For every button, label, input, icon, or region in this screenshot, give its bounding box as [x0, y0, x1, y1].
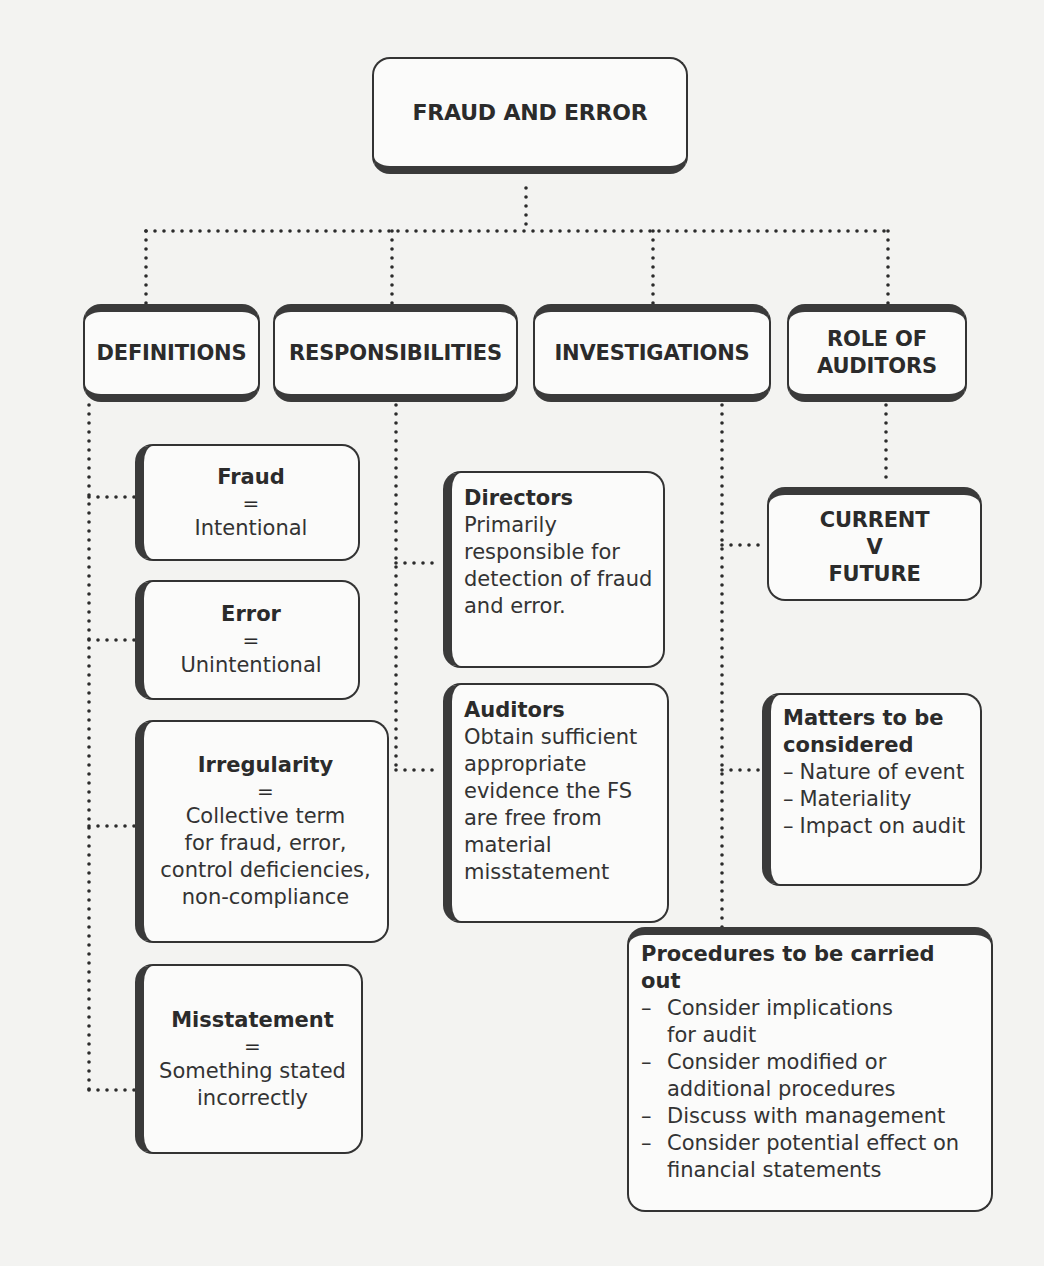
dash-bullet: –	[641, 1049, 667, 1103]
definition-term: Fraud	[217, 464, 285, 491]
matters-item-text: Impact on audit	[800, 813, 966, 840]
versus-label: V	[866, 534, 882, 561]
dash-bullet: –	[641, 1130, 667, 1184]
fraud-and-error-diagram: FRAUD AND ERROR DEFINITIONS RESPONSIBILI…	[0, 0, 1044, 1266]
category-role-of-auditors: ROLE OF AUDITORS	[787, 304, 967, 402]
procedure-text: Consider implications	[667, 995, 893, 1022]
procedures-box: Procedures to be carried out – Consider …	[627, 927, 993, 1212]
procedure-text: Discuss with management	[667, 1103, 945, 1130]
responsibility-text: and error.	[464, 593, 566, 620]
category-responsibilities: RESPONSIBILITIES	[273, 304, 518, 402]
procedure-item: – Discuss with management	[641, 1103, 945, 1130]
definition-term: Misstatement	[171, 1007, 334, 1034]
responsibility-text: are free from	[464, 805, 602, 832]
dash-bullet: –	[783, 786, 794, 813]
category-label: RESPONSIBILITIES	[289, 340, 502, 367]
procedure-text: additional procedures	[667, 1076, 895, 1103]
category-label-line2: AUDITORS	[817, 353, 937, 380]
definition-text: for fraud, error,	[185, 830, 347, 857]
dash-bullet: –	[641, 1103, 667, 1130]
matters-item-text: Materiality	[800, 786, 912, 813]
procedure-text: for audit	[667, 1022, 893, 1049]
dash-bullet: –	[783, 813, 794, 840]
definition-irregularity: Irregularity = Collective term for fraud…	[135, 720, 389, 943]
definition-text: Something stated	[159, 1058, 346, 1085]
responsibility-text: Primarily	[464, 512, 557, 539]
responsibility-text: evidence the FS	[464, 778, 632, 805]
matters-to-be-considered-box: Matters to be considered – Nature of eve…	[762, 693, 982, 886]
equals-sign: =	[243, 491, 260, 515]
procedure-text: Consider potential effect on	[667, 1130, 959, 1157]
diagram-title: FRAUD AND ERROR	[412, 99, 647, 126]
category-label: DEFINITIONS	[97, 340, 247, 367]
definition-text: Intentional	[195, 515, 308, 542]
responsibility-text: appropriate	[464, 751, 586, 778]
responsibility-text: detection of fraud	[464, 566, 652, 593]
matters-heading-line1: Matters to be	[783, 705, 944, 732]
responsibility-text: Obtain sufficient	[464, 724, 637, 751]
definition-text: Unintentional	[180, 652, 321, 679]
procedure-text: Consider modified or	[667, 1049, 895, 1076]
matters-item: – Impact on audit	[783, 813, 965, 840]
responsibility-directors: Directors Primarily responsible for dete…	[443, 471, 665, 668]
dash-bullet: –	[641, 995, 667, 1049]
title-box: FRAUD AND ERROR	[372, 57, 688, 174]
current-v-future-box: CURRENT V FUTURE	[767, 487, 982, 601]
responsibility-text: misstatement	[464, 859, 609, 886]
definition-text: non-compliance	[182, 884, 350, 911]
procedure-item: – Consider modified or additional proced…	[641, 1049, 895, 1103]
definition-fraud: Fraud = Intentional	[135, 444, 360, 561]
category-label-line1: ROLE OF	[827, 326, 927, 353]
procedure-item: – Consider potential effect on financial…	[641, 1130, 959, 1184]
current-label: CURRENT	[820, 507, 930, 534]
procedure-item: – Consider implications for audit	[641, 995, 893, 1049]
category-investigations: INVESTIGATIONS	[533, 304, 771, 402]
responsibility-auditors: Auditors Obtain sufficient appropriate e…	[443, 683, 669, 923]
definition-error: Error = Unintentional	[135, 580, 360, 700]
equals-sign: =	[257, 779, 274, 803]
matters-item: – Nature of event	[783, 759, 964, 786]
procedure-text: financial statements	[667, 1157, 959, 1184]
definition-term: Error	[221, 601, 281, 628]
definition-text: Collective term	[186, 803, 346, 830]
definition-term: Irregularity	[198, 752, 333, 779]
matters-item: – Materiality	[783, 786, 911, 813]
matters-item-text: Nature of event	[800, 759, 965, 786]
category-label: INVESTIGATIONS	[555, 340, 750, 367]
responsibility-text: material	[464, 832, 552, 859]
procedures-heading: Procedures to be carried out	[641, 941, 981, 995]
responsibility-text: responsible for	[464, 539, 620, 566]
equals-sign: =	[244, 1034, 261, 1058]
definition-text: incorrectly	[197, 1085, 308, 1112]
responsibility-party: Auditors	[464, 697, 565, 724]
equals-sign: =	[243, 628, 260, 652]
responsibility-party: Directors	[464, 485, 573, 512]
definition-misstatement: Misstatement = Something stated incorrec…	[135, 964, 363, 1154]
dash-bullet: –	[783, 759, 794, 786]
category-definitions: DEFINITIONS	[83, 304, 260, 402]
future-label: FUTURE	[828, 561, 920, 588]
definition-text: control deficiencies,	[160, 857, 370, 884]
matters-heading-line2: considered	[783, 732, 913, 759]
